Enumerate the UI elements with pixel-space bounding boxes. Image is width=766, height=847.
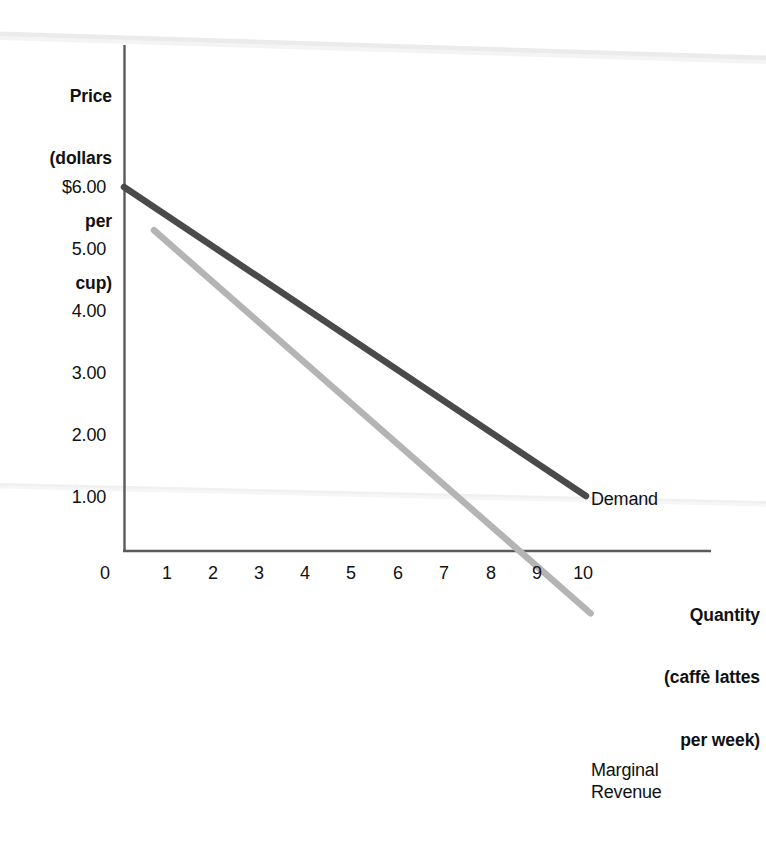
x-tick-label-4: 4	[290, 563, 320, 584]
x-tick-label-6: 6	[383, 563, 413, 584]
x-axis-title-line-3: per week)	[560, 730, 760, 751]
y-tick-label-5: 5.00	[20, 239, 106, 260]
x-tick-label-0: 0	[90, 563, 120, 584]
x-tick-label-1: 1	[152, 563, 182, 584]
x-axis-title-line-1: Quantity	[560, 605, 760, 626]
series-label-marginal-revenue-line-1: Marginal	[591, 760, 662, 782]
marginal-revenue-line-segment	[154, 230, 591, 613]
x-axis-title-line-2: (caffè lattes	[560, 667, 760, 688]
x-tick-label-9: 9	[522, 563, 552, 584]
y-tick-label-1: 1.00	[20, 487, 106, 508]
scan-artifact-lines	[0, 34, 766, 505]
y-axis-title-line-4: cup)	[0, 273, 112, 294]
y-tick-label-2: 2.00	[20, 425, 106, 446]
x-tick-label-2: 2	[198, 563, 228, 584]
x-tick-label-10: 10	[568, 563, 598, 584]
x-tick-label-3: 3	[244, 563, 274, 584]
y-axis-title-line-3: per	[0, 211, 112, 232]
chart-axes	[123, 45, 711, 552]
series-label-marginal-revenue-line-2: Revenue	[591, 782, 662, 804]
series-label-marginal-revenue: Marginal Revenue	[591, 760, 662, 804]
y-tick-label-6: $6.00	[20, 177, 106, 198]
y-axis-title-line-1: Price	[0, 86, 112, 107]
demand-and-marginal-revenue-chart: Price (dollars per cup) Quantity (caffè …	[0, 0, 766, 847]
x-tick-label-5: 5	[336, 563, 366, 584]
demand-line	[124, 187, 586, 496]
series-label-demand: Demand	[591, 489, 658, 511]
x-tick-label-8: 8	[476, 563, 506, 584]
y-tick-label-3: 3.00	[20, 363, 106, 384]
y-tick-label-4: 4.00	[20, 301, 106, 322]
x-tick-label-7: 7	[429, 563, 459, 584]
x-axis-title: Quantity (caffè lattes per week)	[560, 563, 760, 792]
y-axis-title-line-2: (dollars	[0, 148, 112, 169]
